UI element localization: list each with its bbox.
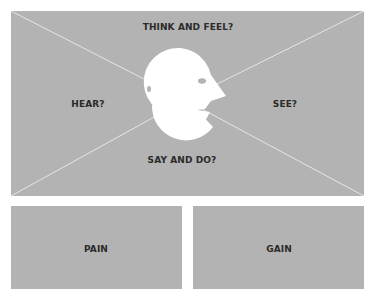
hear-label: HEAR? [71, 99, 104, 109]
see-label: SEE? [273, 99, 297, 109]
say-and-do-label: SAY AND DO? [148, 155, 217, 165]
diagram-overlay [0, 0, 375, 297]
pain-label: PAIN [84, 244, 108, 254]
head-profile-icon [144, 48, 226, 140]
diagonal-bottom-right [185, 100, 364, 196]
think-and-feel-label: THINK AND FEEL? [143, 22, 234, 32]
eye-icon [198, 78, 206, 84]
gain-label: GAIN [266, 244, 292, 254]
